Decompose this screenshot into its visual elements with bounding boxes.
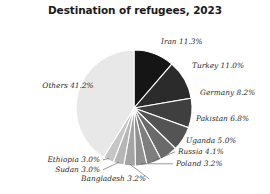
- slice-label: Germany 8.2%: [200, 88, 255, 97]
- leader-line: [103, 162, 119, 170]
- slice-label: Pakistan 6.8%: [195, 114, 249, 123]
- slice-label: Russia 4.1%: [177, 147, 224, 156]
- pie-slices-group: [76, 50, 192, 166]
- pie-chart-figure: Destination of refugees, 2023 Iran 11.3%…: [0, 0, 270, 194]
- slice-label: Poland 3.2%: [175, 159, 223, 168]
- slice-label: Iran 11.3%: [160, 37, 202, 46]
- slice-label: Ethiopia 3.0%: [46, 155, 100, 164]
- slice-label: Bangladesh 3.2%: [80, 174, 146, 183]
- pie-chart-canvas: Iran 11.3%Turkey 11.0%Germany 8.2%Pakist…: [0, 0, 270, 194]
- slice-label: Uganda 5.0%: [186, 136, 236, 145]
- slice-label: Others 41.2%: [42, 81, 93, 90]
- slice-label: Turkey 11.0%: [192, 61, 244, 70]
- slice-label: Sudan 3.0%: [55, 165, 100, 174]
